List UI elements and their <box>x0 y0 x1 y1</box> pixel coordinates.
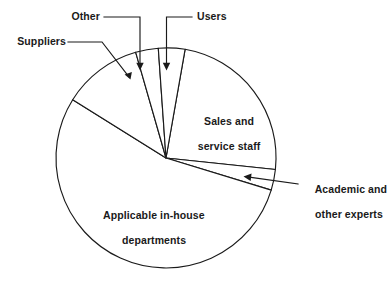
pie-label-suppliers: Suppliers <box>6 35 66 48</box>
pie-label-sales-and-service-staff: Sales and service staff <box>175 102 271 165</box>
pie-label-sales-line-1: Sales and <box>204 115 254 127</box>
pie-chart-figure: Suppliers Other Users Sales and service … <box>0 0 388 297</box>
pie-label-sales-line-2: service staff <box>198 140 261 152</box>
pie-label-in-house-line-1: Applicable in-house <box>103 209 205 221</box>
pie-label-academic-and-other-experts: Academic and other experts <box>303 170 387 233</box>
pie-label-academic-line-1: Academic and <box>315 183 387 195</box>
pie-label-applicable-in-house-departments: Applicable in-house departments <box>72 196 224 259</box>
pie-label-users: Users <box>197 10 257 23</box>
pie-label-in-house-line-2: departments <box>122 234 186 246</box>
pie-label-academic-line-2: other experts <box>315 208 383 220</box>
pie-label-other: Other <box>50 10 100 23</box>
